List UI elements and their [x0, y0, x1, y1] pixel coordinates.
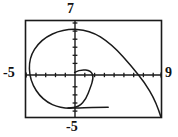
graphing-calculator-screen: 7 -5 -5 9: [0, 0, 178, 137]
window-label-ymax: 7: [67, 2, 74, 16]
graph-window-frame: [26, 21, 162, 118]
window-label-ymin: -5: [66, 120, 78, 134]
window-label-xmin: -5: [3, 66, 15, 80]
window-label-xmax: 9: [165, 66, 172, 80]
graph-plot-area: [0, 0, 178, 137]
